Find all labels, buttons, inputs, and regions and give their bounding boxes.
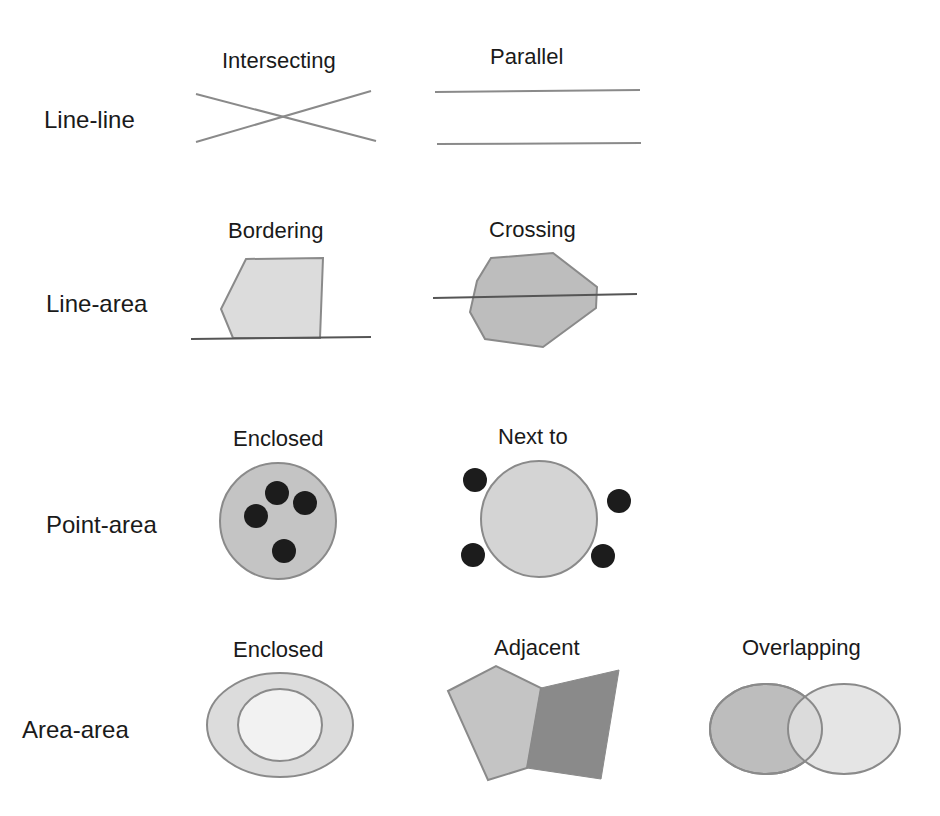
parallel-lines [435,90,641,144]
enclosed-points [220,463,336,579]
overlapping-areas [710,684,900,774]
crossing-polygon [433,253,637,347]
diagram-canvas [0,0,940,816]
intersecting-lines [196,91,376,142]
bordering-polygon [191,258,371,339]
enclosed-areas [207,673,353,777]
adjacent-areas [448,666,619,780]
next-to-points [461,461,631,577]
